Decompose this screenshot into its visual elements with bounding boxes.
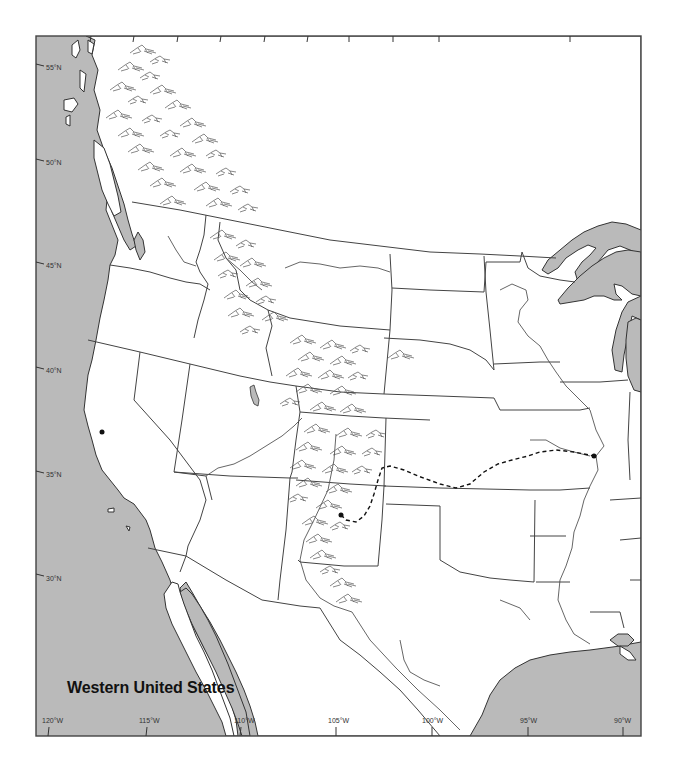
lat-label: 45°N (46, 262, 62, 269)
lon-label: 110°W (234, 717, 255, 724)
lon-label: 120°W (42, 717, 63, 724)
map-container: 55°N 50°N 45°N 40°N 35°N 30°N 120°W 115°… (0, 0, 677, 773)
lon-label: 100°W (422, 717, 443, 724)
lon-label: 90°W (614, 717, 632, 724)
map-body (36, 36, 641, 736)
lon-label: 115°W (139, 717, 160, 724)
lat-label: 55°N (46, 64, 62, 71)
lat-label: 30°N (46, 575, 62, 582)
channel-island (108, 508, 114, 512)
island (66, 115, 70, 126)
lon-label: 95°W (520, 717, 538, 724)
trail-endpoint-east (592, 454, 597, 459)
trail-endpoint-west (339, 513, 344, 518)
island-dot (100, 430, 105, 435)
lat-label: 35°N (46, 471, 62, 478)
lat-label: 40°N (46, 367, 62, 374)
lat-label: 50°N (46, 159, 62, 166)
map-title: Western United States (67, 679, 234, 697)
map-svg: 55°N 50°N 45°N 40°N 35°N 30°N 120°W 115°… (0, 0, 677, 773)
lon-label: 105°W (328, 717, 349, 724)
